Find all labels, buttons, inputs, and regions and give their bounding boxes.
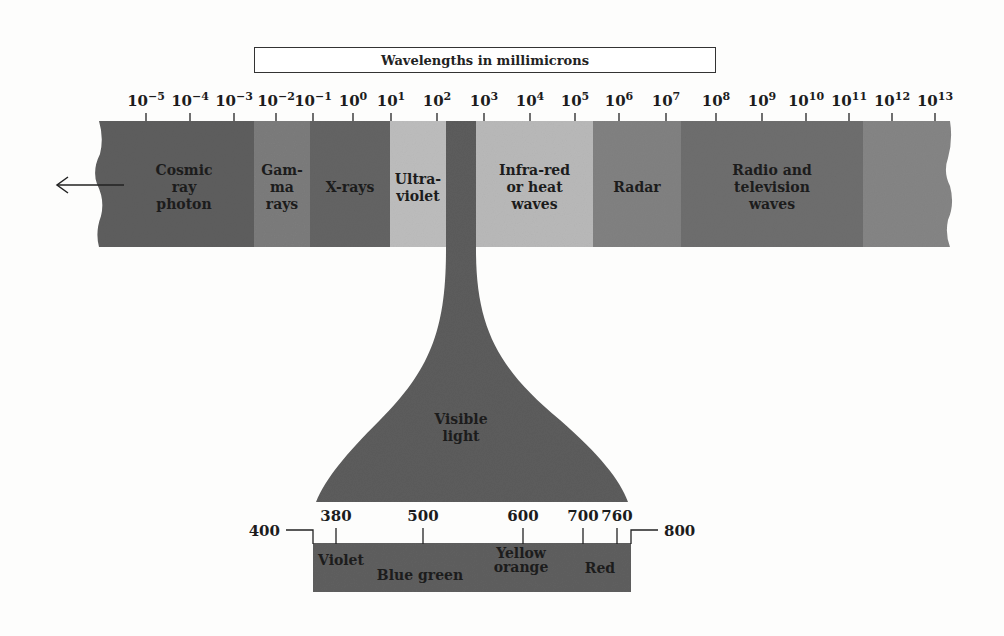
scale-tick-label: 109: [748, 90, 777, 110]
scale-tick-label: 10−2: [257, 90, 295, 110]
visible-color-label: Blue green: [377, 567, 463, 583]
visible-scale-tick-label: 700: [567, 507, 598, 525]
visible-light-label: Visiblelight: [433, 411, 487, 444]
scale-tick-label: 1012: [874, 90, 910, 110]
scale-tick-label: 104: [516, 90, 545, 110]
tick-marks: [146, 113, 935, 122]
scale-tick-label: 1010: [788, 90, 825, 110]
visible-scale-tick-label: 500: [407, 507, 438, 525]
scale-tick-label: 106: [605, 90, 634, 110]
scale-tick-label: 1011: [831, 90, 867, 110]
visible-scale-tick-label: 760: [601, 507, 632, 525]
right-end-label: 800: [664, 522, 695, 540]
visible-scale-tick-label: 380: [320, 507, 351, 525]
scale-tick-label: 108: [702, 90, 731, 110]
band-label-radar: Radar: [613, 179, 661, 195]
visible-spectrum-bar: 400800380500600700760VioletBlue greenYel…: [249, 507, 696, 592]
scale-tick-label: 10−4: [171, 90, 209, 110]
band-long-waves: [863, 121, 960, 247]
spectrum-diagram: 10−510−410−310−210−110010110210310410510…: [0, 0, 1004, 636]
tick-labels: 10−510−410−310−210−110010110210310410510…: [127, 90, 953, 110]
scale-tick-label: 103: [470, 90, 499, 110]
visible-scale-tick-label: 600: [507, 507, 538, 525]
scale-tick-label: 102: [423, 90, 452, 110]
band-label-ultraviolet: Ultra-violet: [395, 171, 441, 204]
scale-tick-label: 10−3: [215, 90, 253, 110]
scale-tick-label: 10−1: [294, 90, 332, 110]
right-end-bracket: [631, 530, 658, 544]
scale-tick-label: 101: [377, 90, 406, 110]
visible-color-label: Yelloworange: [494, 545, 549, 575]
scale-tick-label: 107: [652, 90, 681, 110]
visible-color-label: Violet: [317, 552, 364, 568]
scale-tick-label: 10−5: [127, 90, 165, 110]
scale-tick-label: 1013: [917, 90, 953, 110]
left-end-label: 400: [249, 522, 280, 540]
scale-tick-label: 100: [339, 90, 368, 110]
visible-color-label: Red: [585, 560, 616, 576]
band-label-x-rays: X-rays: [326, 179, 375, 195]
scale-tick-label: 105: [561, 90, 590, 110]
left-end-bracket: [286, 530, 313, 544]
